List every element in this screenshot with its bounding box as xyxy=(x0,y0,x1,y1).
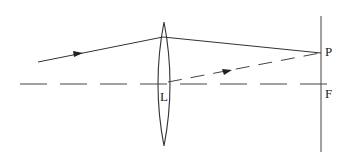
label-focal-point: F xyxy=(325,86,332,101)
incident-ray-arrow-icon xyxy=(73,51,83,57)
label-lens: L xyxy=(160,89,168,104)
central-ray-arrow-icon xyxy=(222,69,232,75)
lens-diagram: L P F xyxy=(0,0,351,162)
central-ray xyxy=(168,53,320,82)
refracted-ray xyxy=(163,37,321,53)
incident-ray xyxy=(38,37,163,62)
label-point-p: P xyxy=(325,44,332,59)
